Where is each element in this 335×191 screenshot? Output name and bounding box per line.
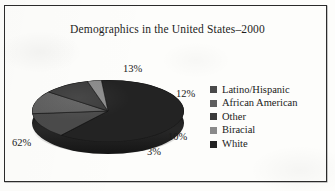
slice-label-other: 10%	[168, 131, 187, 142]
legend-item-white: White	[210, 137, 326, 151]
slice-label-white: 62%	[12, 137, 31, 148]
legend-swatch-icon	[210, 113, 217, 120]
legend-item-label: Other	[222, 112, 246, 123]
legend-item-african-american: African American	[210, 97, 326, 111]
legend-swatch-icon	[210, 100, 217, 107]
chart-figure: Demographics in the United States–2000 1…	[0, 0, 335, 191]
legend-swatch-icon	[210, 141, 217, 148]
legend-swatch-icon	[210, 86, 217, 93]
legend-item-label: Biracial	[222, 125, 255, 136]
chart-legend: Latino/Hispanic African American Other B…	[210, 83, 326, 151]
legend-item-label: White	[222, 139, 248, 150]
legend-item-latino-hispanic: Latino/Hispanic	[210, 83, 326, 97]
pie-slices	[32, 80, 184, 142]
chart-title: Demographics in the United States–2000	[0, 23, 335, 35]
legend-swatch-icon	[210, 127, 217, 134]
pie-chart	[24, 70, 192, 160]
slice-label-biracial: 3%	[147, 146, 161, 157]
legend-item-label: Latino/Hispanic	[222, 85, 290, 96]
legend-item-label: African American	[222, 98, 298, 109]
slice-label-latino-hispanic: 13%	[123, 63, 142, 74]
pie-top-face	[32, 80, 184, 142]
legend-item-biracial: Biracial	[210, 124, 326, 138]
slice-label-african-american: 12%	[176, 88, 195, 99]
legend-item-other: Other	[210, 110, 326, 124]
